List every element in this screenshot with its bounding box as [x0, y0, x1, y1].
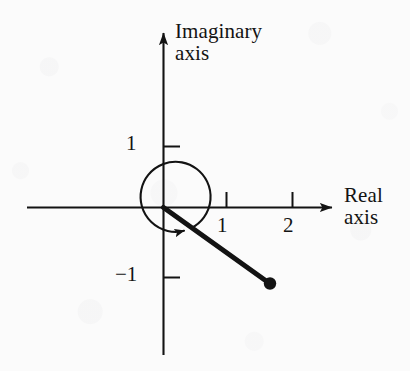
imaginary-axis-title: Imaginary axis — [175, 20, 262, 65]
tick-label-imaginary-1: 1 — [126, 131, 137, 156]
real-axis-title: Real axis — [344, 184, 383, 229]
tick-label-real-1: 1 — [217, 213, 228, 238]
imaginary-axis-title-line1: Imaginary — [175, 20, 262, 42]
complex-plane-figure: Imaginary axis Real axis 1 −1 1 2 — [0, 0, 410, 371]
real-axis-title-line2: axis — [344, 206, 383, 228]
imaginary-axis-title-line2: axis — [175, 42, 262, 64]
complex-number-point — [264, 277, 276, 289]
real-axis-title-line1: Real — [344, 184, 383, 206]
rotation-arc — [141, 162, 211, 232]
tick-label-real-2: 2 — [283, 213, 294, 238]
tick-label-imaginary-negative-1: −1 — [115, 262, 137, 287]
